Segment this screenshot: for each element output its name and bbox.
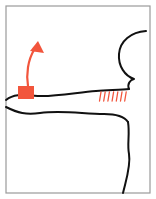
paper-background [0, 0, 156, 199]
red-square-marker [18, 86, 34, 99]
figure-canvas [0, 0, 156, 199]
sketch-figure [0, 0, 156, 199]
